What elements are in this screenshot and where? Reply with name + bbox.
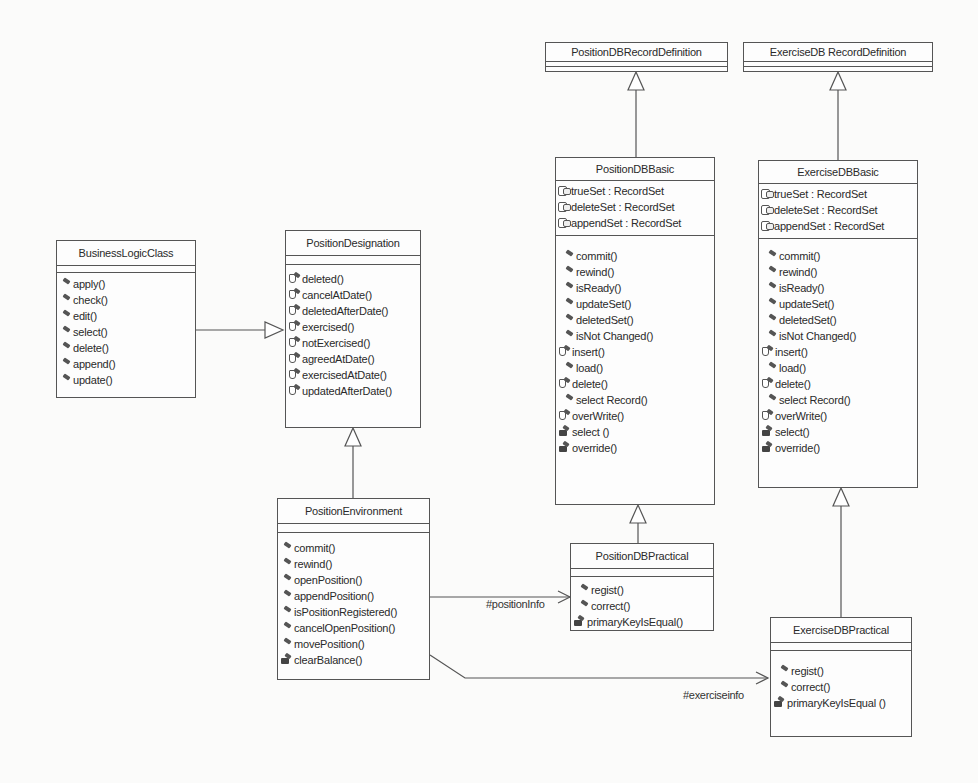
public-operation-icon bbox=[563, 362, 575, 374]
private-operation-icon bbox=[774, 697, 786, 709]
public-operation-icon bbox=[60, 358, 72, 370]
public-operation-icon bbox=[60, 310, 72, 322]
operations-compartment: regist() correct() primaryKeyIsEqual () bbox=[771, 651, 911, 714]
class-exercise-db-record-definition[interactable]: ExerciseDB RecordDefinition bbox=[743, 42, 933, 72]
private-operation-icon bbox=[559, 426, 571, 438]
public-operation-icon bbox=[766, 314, 778, 326]
attribute-icon bbox=[558, 185, 570, 197]
attribute: deleteSet : RecordSet bbox=[558, 199, 712, 215]
private-operation-icon bbox=[762, 426, 774, 438]
attribute: appendSet : RecordSet bbox=[761, 218, 915, 234]
class-position-environment[interactable]: PositionEnvironment commit() rewind() op… bbox=[277, 498, 430, 680]
operation: override() bbox=[762, 440, 914, 456]
operation: updateSet() bbox=[559, 296, 711, 312]
attribute: trueSet : RecordSet bbox=[558, 183, 712, 199]
operation: regist() bbox=[574, 582, 710, 598]
attributes-compartment bbox=[771, 643, 911, 651]
protected-operation-icon bbox=[559, 346, 571, 358]
class-name: ExerciseDBBasic bbox=[759, 161, 917, 184]
operation: edit() bbox=[60, 308, 192, 324]
public-operation-icon bbox=[563, 298, 575, 310]
public-operation-icon bbox=[766, 330, 778, 342]
attribute-icon bbox=[761, 220, 773, 232]
operation: overWrite() bbox=[762, 408, 914, 424]
public-operation-icon bbox=[563, 282, 575, 294]
operation: regist() bbox=[774, 663, 908, 679]
operation: correct() bbox=[574, 598, 710, 614]
public-operation-icon bbox=[60, 294, 72, 306]
operation: exercised() bbox=[289, 319, 417, 335]
public-operation-icon bbox=[778, 665, 790, 677]
class-position-db-record-definition[interactable]: PositionDBRecordDefinition bbox=[545, 42, 728, 72]
public-operation-icon bbox=[563, 394, 575, 406]
public-operation-icon bbox=[766, 282, 778, 294]
operation: updatedAfterDate() bbox=[289, 383, 417, 399]
public-operation-icon bbox=[563, 266, 575, 278]
public-operation-icon bbox=[281, 622, 293, 634]
operation: isNot Changed() bbox=[559, 328, 711, 344]
public-operation-icon bbox=[766, 362, 778, 374]
operation: load() bbox=[559, 360, 711, 376]
protected-operation-icon bbox=[559, 410, 571, 422]
protected-operation-icon bbox=[762, 410, 774, 422]
public-operation-icon bbox=[563, 314, 575, 326]
role-label-position-info: #positionInfo bbox=[486, 598, 544, 610]
class-name: BusinessLogicClass bbox=[57, 241, 195, 266]
operations-compartment: commit() rewind() isReady() updateSet() … bbox=[759, 239, 917, 459]
operations-compartment: commit() rewind() isReady() updateSet() … bbox=[556, 236, 714, 459]
operation: deletedAfterDate() bbox=[289, 303, 417, 319]
attribute-icon bbox=[558, 201, 570, 213]
private-operation-icon bbox=[281, 654, 293, 666]
private-operation-icon bbox=[574, 616, 586, 628]
operation: check() bbox=[60, 292, 192, 308]
protected-operation-icon bbox=[559, 378, 571, 390]
attribute: deleteSet : RecordSet bbox=[761, 202, 915, 218]
class-business-logic[interactable]: BusinessLogicClass apply() check() edit(… bbox=[56, 240, 196, 398]
operation: select () bbox=[559, 424, 711, 440]
class-position-db-practical[interactable]: PositionDBPractical regist() correct() p… bbox=[570, 543, 714, 631]
protected-operation-icon bbox=[289, 273, 301, 285]
operation: insert() bbox=[762, 344, 914, 360]
class-position-designation[interactable]: PositionDesignation deleted() cancelAtDa… bbox=[285, 230, 421, 428]
operation: delete() bbox=[559, 376, 711, 392]
public-operation-icon bbox=[281, 558, 293, 570]
public-operation-icon bbox=[60, 342, 72, 354]
public-operation-icon bbox=[281, 574, 293, 586]
public-operation-icon bbox=[60, 326, 72, 338]
protected-operation-icon bbox=[762, 346, 774, 358]
operation: apply() bbox=[60, 276, 192, 292]
protected-operation-icon bbox=[762, 378, 774, 390]
public-operation-icon bbox=[766, 266, 778, 278]
class-name: PositionEnvironment bbox=[278, 499, 429, 524]
operation: primaryKeyIsEqual () bbox=[774, 695, 908, 711]
public-operation-icon bbox=[766, 250, 778, 262]
public-operation-icon bbox=[778, 681, 790, 693]
class-name: PositionDBBasic bbox=[556, 158, 714, 181]
operation: select Record() bbox=[762, 392, 914, 408]
public-operation-icon bbox=[281, 606, 293, 618]
attribute: appendSet : RecordSet bbox=[558, 215, 712, 231]
operation: movePosition() bbox=[281, 636, 426, 652]
protected-operation-icon bbox=[289, 305, 301, 317]
operation: commit() bbox=[762, 248, 914, 264]
operation: select Record() bbox=[559, 392, 711, 408]
operation: isPositionRegistered() bbox=[281, 604, 426, 620]
protected-operation-icon bbox=[289, 321, 301, 333]
operations-compartment: deleted() cancelAtDate() deletedAfterDat… bbox=[286, 265, 420, 402]
class-position-db-basic[interactable]: PositionDBBasic trueSet : RecordSet dele… bbox=[555, 157, 715, 505]
operations-compartment: regist() correct() primaryKeyIsEqual() bbox=[571, 577, 713, 633]
class-exercise-db-practical[interactable]: ExerciseDBPractical regist() correct() p… bbox=[770, 617, 912, 737]
class-exercise-db-basic[interactable]: ExerciseDBBasic trueSet : RecordSet dele… bbox=[758, 160, 918, 488]
attributes-compartment bbox=[571, 569, 713, 577]
attribute: trueSet : RecordSet bbox=[761, 186, 915, 202]
public-operation-icon bbox=[60, 278, 72, 290]
operation: delete() bbox=[762, 376, 914, 392]
attributes-compartment bbox=[286, 256, 420, 265]
attributes-compartment: trueSet : RecordSet deleteSet : RecordSe… bbox=[556, 181, 714, 236]
operation: primaryKeyIsEqual() bbox=[574, 614, 710, 630]
operation: cancelAtDate() bbox=[289, 287, 417, 303]
operation: append() bbox=[60, 356, 192, 372]
operation: rewind() bbox=[281, 556, 426, 572]
operation: agreedAtDate() bbox=[289, 351, 417, 367]
operation: select() bbox=[60, 324, 192, 340]
